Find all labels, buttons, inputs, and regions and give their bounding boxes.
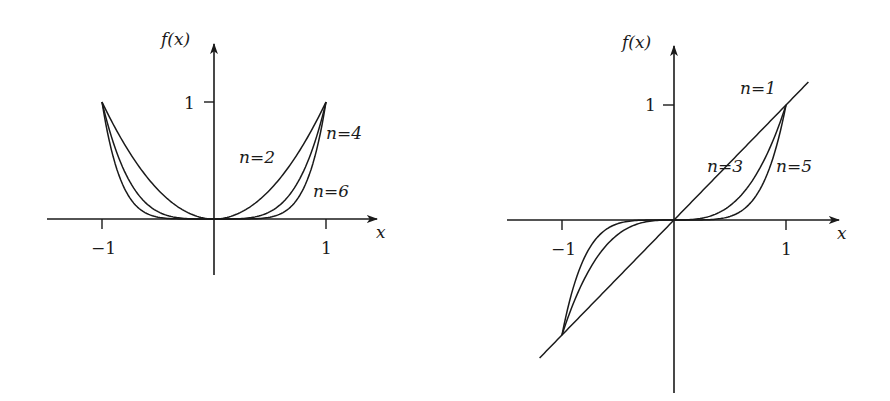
- label-n5: n=5: [776, 156, 812, 176]
- figure-svg: f(x) x −1 1 1 n=2 n=4 n=6 f(x) x −1 1 1 …: [0, 0, 890, 401]
- figure: f(x) x −1 1 1 n=2 n=4 n=6 f(x) x −1 1 1 …: [0, 0, 890, 401]
- label-n4: n=4: [326, 123, 362, 143]
- left-x-tick-label-neg1: −1: [91, 238, 116, 258]
- left-xlabel: x: [376, 222, 386, 242]
- right-ylabel: f(x): [620, 32, 651, 52]
- label-n2: n=2: [239, 147, 275, 167]
- right-plot: f(x) x −1 1 1 n=1 n=3 n=5: [507, 32, 847, 393]
- left-plot: f(x) x −1 1 1 n=2 n=4 n=6: [47, 29, 386, 275]
- label-n6: n=6: [313, 181, 349, 201]
- right-xlabel: x: [837, 223, 847, 243]
- right-x-tick-label-neg1: −1: [551, 239, 576, 259]
- left-y-tick-label-1: 1: [184, 93, 195, 113]
- right-y-tick-label-1: 1: [645, 95, 656, 115]
- left-ylabel: f(x): [159, 29, 190, 49]
- right-x-tick-label-pos1: 1: [781, 239, 792, 259]
- label-n3: n=3: [707, 156, 743, 176]
- label-n1: n=1: [740, 78, 776, 98]
- left-x-tick-label-pos1: 1: [321, 238, 332, 258]
